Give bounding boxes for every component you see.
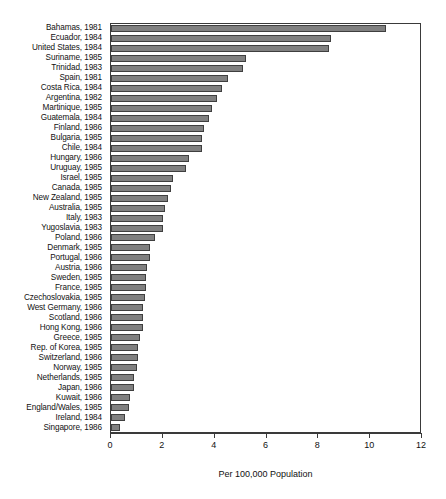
bar (111, 414, 125, 421)
category-label: Singapore, 1986 (0, 423, 106, 433)
bar-row (111, 203, 420, 213)
bar-row (111, 114, 420, 124)
category-label: Netherlands, 1985 (0, 373, 106, 383)
category-label: Portugal, 1986 (0, 253, 106, 263)
category-label: Hungary, 1986 (0, 153, 106, 163)
category-label: Czechoslovakia, 1985 (0, 293, 106, 303)
x-tick-mark (214, 433, 215, 438)
bar (111, 125, 204, 132)
bar (111, 155, 189, 162)
x-tick-mark (110, 433, 111, 438)
bar (111, 55, 246, 62)
bar-row (111, 372, 420, 382)
bar (111, 85, 222, 92)
bar (111, 145, 202, 152)
bar-row (111, 104, 420, 114)
bar (111, 175, 173, 182)
bar-row (111, 382, 420, 392)
bar-row (111, 94, 420, 104)
category-label: New Zealand, 1985 (0, 193, 106, 203)
bar (111, 344, 138, 351)
bar (111, 135, 202, 142)
x-tick-label: 4 (211, 440, 216, 450)
x-tick-mark (421, 433, 422, 438)
bar-row (111, 64, 420, 74)
bar (111, 424, 120, 431)
category-label: Ecuador, 1984 (0, 33, 106, 43)
category-label: Costa Rica, 1984 (0, 83, 106, 93)
bar-row (111, 133, 420, 143)
category-label: England/Wales, 1985 (0, 403, 106, 413)
bar (111, 374, 134, 381)
bar (111, 95, 217, 102)
x-tick-label: 12 (416, 440, 426, 450)
bar-row (111, 223, 420, 233)
x-tick-mark (317, 433, 318, 438)
bar-row (111, 124, 420, 134)
bar-row (111, 263, 420, 273)
bar-row (111, 323, 420, 333)
category-label: Chile, 1984 (0, 143, 106, 153)
category-label: Bulgaria, 1985 (0, 133, 106, 143)
bar-row (111, 173, 420, 183)
bar-row (111, 44, 420, 54)
bar (111, 35, 331, 42)
bar-row (111, 143, 420, 153)
x-tick-mark (266, 433, 267, 438)
category-label: United States, 1984 (0, 43, 106, 53)
category-label: Spain, 1981 (0, 73, 106, 83)
category-label: Rep. of Korea, 1985 (0, 343, 106, 353)
bar-row (111, 333, 420, 343)
plot-area (110, 23, 421, 433)
bar-row (111, 402, 420, 412)
bar (111, 284, 146, 291)
category-label: Scotland, 1986 (0, 313, 106, 323)
bar (111, 404, 129, 411)
category-label: Finland, 1986 (0, 123, 106, 133)
category-label: Uruguay, 1985 (0, 163, 106, 173)
category-label: Ireland, 1984 (0, 413, 106, 423)
category-label: Trinidad, 1983 (0, 63, 106, 73)
x-tick-label: 8 (315, 440, 320, 450)
bar (111, 254, 150, 261)
bar-row (111, 163, 420, 173)
bar-chart-figure: Bahamas, 1981Ecuador, 1984United States,… (0, 0, 446, 499)
x-tick-label: 0 (107, 440, 112, 450)
bar (111, 215, 163, 222)
bar-series (111, 24, 420, 432)
x-axis-label: Per 100,000 Population (110, 469, 421, 479)
bar (111, 294, 145, 301)
category-label: Bahamas, 1981 (0, 23, 106, 33)
x-tick-mark (162, 433, 163, 438)
x-tick-mark (369, 433, 370, 438)
bar (111, 394, 130, 401)
bar-row (111, 24, 420, 34)
bar-row (111, 283, 420, 293)
category-label: Japan, 1986 (0, 383, 106, 393)
bar (111, 65, 243, 72)
category-label: Australia, 1985 (0, 203, 106, 213)
bar-row (111, 153, 420, 163)
bar (111, 105, 212, 112)
bar (111, 165, 186, 172)
bar-row (111, 253, 420, 263)
category-label: Austria, 1986 (0, 263, 106, 273)
category-label: Hong Kong, 1986 (0, 323, 106, 333)
bar (111, 384, 134, 391)
bar (111, 185, 171, 192)
category-label: Argentina, 1982 (0, 93, 106, 103)
bar (111, 304, 143, 311)
bar-row (111, 34, 420, 44)
bar (111, 45, 329, 52)
bar-row (111, 233, 420, 243)
bar (111, 334, 140, 341)
category-label: Kuwait, 1986 (0, 393, 106, 403)
bar-row (111, 193, 420, 203)
bar-row (111, 313, 420, 323)
bar (111, 25, 386, 32)
bar-row (111, 213, 420, 223)
bar (111, 115, 209, 122)
bar-row (111, 183, 420, 193)
bar (111, 225, 163, 232)
category-label: West Germany, 1986 (0, 303, 106, 313)
